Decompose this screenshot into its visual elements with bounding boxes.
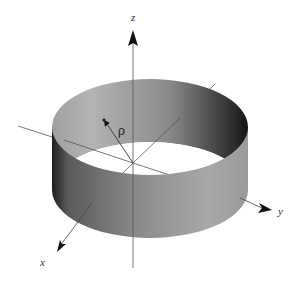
y-arrowhead (258, 203, 272, 213)
y-axis-label: y (277, 205, 283, 217)
x-arrowhead (57, 240, 66, 252)
z-axis-label: z (130, 11, 136, 23)
rho-label: ρ (118, 124, 125, 138)
cylinder-diagram: z x y ρ (0, 0, 301, 283)
x-axis-label: x (39, 256, 45, 268)
rho-point (103, 119, 106, 122)
